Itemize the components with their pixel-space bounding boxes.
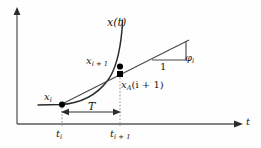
label-angle-phi: φi <box>185 53 194 63</box>
marker-xi <box>59 101 65 107</box>
label-time-i-next: ti + 1 <box>110 129 131 139</box>
label-time-axis: t <box>246 117 250 127</box>
label-approximation: xA(i + 1) <box>121 80 164 90</box>
marker-xa-next <box>117 71 123 77</box>
label-sample-current: xi <box>44 92 52 102</box>
label-sample-next: xi + 1 <box>86 56 108 66</box>
figure-canvas <box>0 0 261 148</box>
euler-approximation-figure: x(t) xi + 1 xA(i + 1) xi φi 1 T ti ti + … <box>0 0 261 148</box>
label-period: T <box>88 101 95 112</box>
euler-line <box>59 40 189 106</box>
label-function-curve: x(t) <box>107 17 126 28</box>
marker-xi-next <box>117 63 123 69</box>
time-axis <box>17 120 243 127</box>
label-unit-run: 1 <box>160 62 166 72</box>
label-time-i: ti <box>56 129 62 139</box>
vertical-axis <box>14 7 21 124</box>
